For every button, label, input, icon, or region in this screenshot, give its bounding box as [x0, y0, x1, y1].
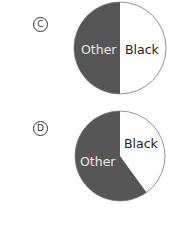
pie-chart-d: Black Other: [0, 108, 185, 218]
pie-chart-c: Other Black: [0, 0, 185, 110]
pie-d-black-label: Black: [124, 136, 159, 151]
pie-c-black-label: Black: [125, 42, 160, 57]
pie-d-other-label: Other: [80, 154, 116, 169]
pie-c-other-label: Other: [81, 42, 117, 57]
